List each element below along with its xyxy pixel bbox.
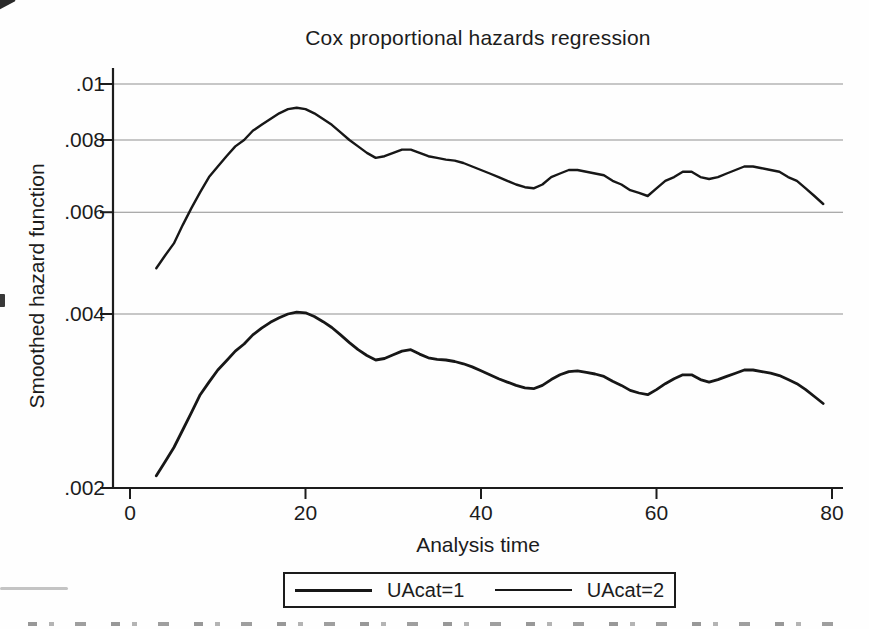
x-tick-label: 80 (802, 501, 862, 525)
cropped-caption-fragment (28, 621, 834, 629)
y-tick-label: .006 (0, 200, 105, 224)
x-tick-label: 40 (451, 501, 511, 525)
x-tick-label: 20 (276, 501, 336, 525)
legend-label-uacat2: UAcat=2 (587, 579, 664, 602)
legend-label-uacat1: UAcat=1 (387, 579, 464, 602)
x-axis-title: Analysis time (113, 533, 843, 557)
hazard-curve-uacat-2 (156, 108, 823, 269)
y-tick-label: .008 (0, 128, 105, 152)
legend-entry-uacat1: UAcat=1 (295, 579, 464, 602)
y-tick-label: .002 (0, 476, 105, 500)
legend: UAcat=1 UAcat=2 (283, 572, 676, 608)
hazard-curve-uacat-1 (156, 312, 823, 476)
uacat1-line-sample-icon (295, 589, 372, 592)
y-tick-label: .01 (0, 72, 105, 96)
scanned-figure-page: Cox proportional hazards regression Smoo… (0, 0, 869, 629)
x-tick-label: 0 (100, 501, 160, 525)
x-tick-label: 60 (627, 501, 687, 525)
uacat2-line-sample-icon (495, 589, 572, 592)
legend-entry-uacat2: UAcat=2 (495, 579, 664, 602)
y-tick-label: .004 (0, 302, 105, 326)
